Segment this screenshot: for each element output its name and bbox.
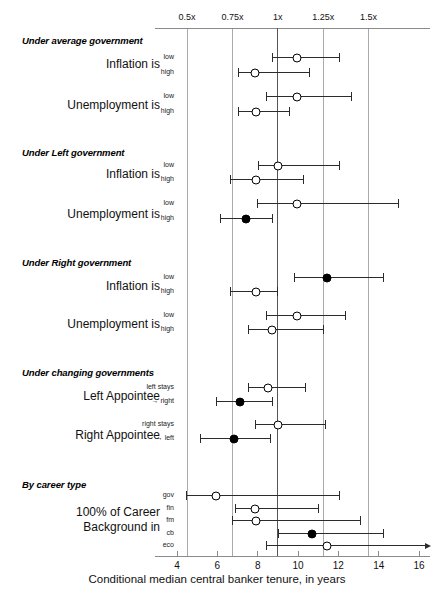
estimate-point-2-0-1	[252, 287, 261, 296]
estimate-point-4-0-0	[212, 491, 221, 500]
ci-cap-high-4-0-2	[360, 516, 361, 525]
bottom-tick-mark-12	[338, 551, 339, 556]
ci-line-2-0-0	[294, 277, 383, 278]
ci-line-2-1-1	[248, 329, 323, 330]
ci-cap-high-1-1-0	[398, 199, 399, 208]
ci-line-4-0-0	[186, 495, 338, 496]
gridline-1.25x	[323, 28, 324, 556]
sub-label-0-0-0: low	[96, 53, 174, 60]
gridline-1.5x	[368, 28, 369, 556]
ci-cap-high-2-0-0	[383, 273, 384, 282]
sub-label-3-1-1: → left	[96, 434, 174, 441]
ci-cap-low-2-1-1	[248, 325, 249, 334]
ci-cap-high-2-1-0	[345, 311, 346, 320]
ci-cap-high-1-1-1	[272, 214, 273, 223]
sub-label-3-1-0: right stays	[96, 420, 174, 427]
ci-cap-low-1-1-0	[257, 199, 258, 208]
ci-line-1-0-1	[230, 179, 303, 180]
estimate-point-0-0-0	[293, 53, 302, 62]
group-title-0: Under average government	[22, 35, 143, 46]
estimate-point-2-1-1	[268, 325, 277, 334]
estimate-point-1-1-1	[242, 214, 251, 223]
bottom-axis-tick-14: 14	[373, 560, 384, 571]
ci-cap-high-2-0-1	[277, 287, 278, 296]
ci-cap-high-2-1-1	[323, 325, 324, 334]
bottom-axis-tick-16: 16	[413, 560, 424, 571]
sub-label-0-1-1: high	[96, 107, 174, 114]
ci-cap-low-3-1-1	[200, 434, 201, 443]
ci-cap-high-0-1-1	[289, 107, 290, 116]
ci-line-0-0-0	[272, 57, 338, 58]
group-title-2: Under Right government	[22, 257, 131, 268]
ci-cap-low-1-0-0	[258, 161, 259, 170]
ci-line-3-0-0	[248, 387, 305, 388]
estimate-point-1-0-0	[273, 161, 282, 170]
ci-cap-high-1-0-0	[339, 161, 340, 170]
ci-line-4-0-3	[278, 533, 383, 534]
ci-cap-high-3-0-0	[305, 383, 306, 392]
ci-cap-high-0-1-0	[351, 92, 352, 101]
ci-line-4-0-4	[266, 545, 425, 546]
ci-line-2-1-0	[266, 315, 345, 316]
bottom-tick-mark-10	[298, 551, 299, 556]
ci-arrow-right-4-0-4	[425, 543, 431, 549]
estimate-point-4-0-2	[252, 516, 261, 525]
ci-cap-low-4-0-0	[186, 491, 187, 500]
bottom-tick-mark-8	[257, 551, 258, 556]
sub-label-1-1-0: low	[96, 199, 174, 206]
estimate-point-3-0-0	[264, 383, 273, 392]
sub-label-4-0-0: gov	[96, 491, 174, 498]
sub-label-1-0-0: low	[96, 161, 174, 168]
sub-label-2-0-0: low	[96, 273, 174, 280]
ci-cap-high-3-1-1	[270, 434, 271, 443]
top-axis-tick-1.5x: 1.5x	[360, 12, 377, 22]
ci-cap-high-0-0-0	[339, 53, 340, 62]
estimate-point-2-1-0	[293, 311, 302, 320]
bottom-tick-mark-14	[378, 551, 379, 556]
sub-label-3-0-1: → right	[96, 397, 174, 404]
ci-cap-low-4-0-1	[235, 504, 236, 513]
sub-label-4-0-4: eco	[96, 541, 174, 548]
sub-label-2-1-1: high	[96, 325, 174, 332]
bottom-axis-tick-8: 8	[255, 560, 261, 571]
estimate-point-0-1-0	[293, 92, 302, 101]
ci-line-1-1-0	[257, 203, 398, 204]
estimate-point-3-0-1	[236, 397, 245, 406]
ci-line-4-0-1	[235, 508, 318, 509]
ci-cap-high-4-0-3	[383, 529, 384, 538]
sub-label-0-1-0: low	[96, 92, 174, 99]
estimate-point-4-0-4	[323, 541, 332, 550]
sub-label-1-1-1: high	[96, 214, 174, 221]
ci-cap-low-0-0-1	[238, 68, 239, 77]
x-axis-caption: Conditional median central banker tenure…	[0, 573, 434, 585]
estimate-point-2-0-0	[323, 273, 332, 282]
sub-label-2-0-1: high	[96, 287, 174, 294]
ci-cap-low-1-1-1	[220, 214, 221, 223]
top-axis-tick-1x: 1x	[273, 12, 283, 22]
ci-cap-low-2-1-0	[266, 311, 267, 320]
bottom-tick-mark-6	[217, 551, 218, 556]
gridline-0.5x	[187, 28, 188, 556]
ci-cap-low-2-0-0	[294, 273, 295, 282]
ci-line-1-0-0	[258, 165, 338, 166]
top-axis-rule	[155, 28, 430, 29]
ci-cap-low-4-0-2	[232, 516, 233, 525]
bottom-tick-mark-4	[177, 551, 178, 556]
sub-label-1-0-1: high	[96, 175, 174, 182]
sub-label-4-0-2: fm	[96, 516, 174, 523]
bottom-axis-tick-12: 12	[333, 560, 344, 571]
forest-plot: 0.5x0.75x1x1.25x1.5x46810121416Condition…	[0, 0, 434, 594]
sub-label-2-1-0: low	[96, 311, 174, 318]
top-axis-tick-0.75x: 0.75x	[221, 12, 243, 22]
group-title-1: Under Left government	[22, 147, 124, 158]
ci-cap-low-4-0-3	[278, 529, 279, 538]
sub-label-4-0-1: fin	[96, 504, 174, 511]
estimate-point-4-0-3	[308, 529, 317, 538]
ci-cap-high-0-0-1	[309, 68, 310, 77]
ci-cap-low-0-1-1	[238, 107, 239, 116]
ci-line-0-1-0	[266, 96, 351, 97]
estimate-point-1-1-0	[293, 199, 302, 208]
ci-cap-low-1-0-1	[230, 175, 231, 184]
ci-cap-low-4-0-4	[266, 541, 267, 550]
estimate-point-3-1-1	[230, 434, 239, 443]
